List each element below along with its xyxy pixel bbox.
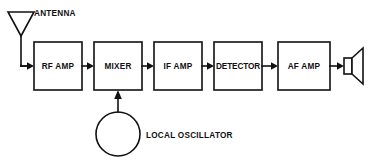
block-af-amp-label: AF AMP: [288, 62, 321, 71]
block-rf-amp-label: RF AMP: [42, 62, 75, 71]
antenna-to-rf-amp-connector: [21, 62, 34, 70]
block-diagram: RF AMP MIXER IF AMP DETECTOR: [0, 0, 369, 162]
connector-if-amp-to-detector: [202, 62, 214, 70]
connector-detector-to-af-amp: [262, 62, 278, 70]
block-if-amp[interactable]: IF AMP: [154, 42, 202, 90]
speaker-icon: [344, 48, 363, 84]
block-if-amp-label: IF AMP: [164, 62, 193, 71]
antenna-label: ANTENNA: [34, 9, 76, 18]
block-mixer[interactable]: MIXER: [94, 42, 142, 90]
block-detector-label: DETECTOR: [216, 62, 260, 71]
connector-mixer-to-if-amp: [142, 62, 154, 70]
block-af-amp[interactable]: AF AMP: [278, 42, 330, 90]
local-oscillator-icon[interactable]: [96, 112, 140, 156]
block-mixer-label: MIXER: [104, 62, 131, 71]
antenna-icon: [8, 12, 34, 66]
local-oscillator-label: LOCAL OSCILLATOR: [146, 131, 233, 140]
connector-af-amp-to-speaker: [330, 62, 344, 70]
connector-rf-amp-to-mixer: [82, 62, 94, 70]
block-detector[interactable]: DETECTOR: [214, 42, 262, 90]
diagram-canvas: RF AMP MIXER IF AMP DETECTOR: [0, 0, 369, 162]
block-rf-amp[interactable]: RF AMP: [34, 42, 82, 90]
connector-local-oscillator-to-mixer: [114, 90, 122, 112]
